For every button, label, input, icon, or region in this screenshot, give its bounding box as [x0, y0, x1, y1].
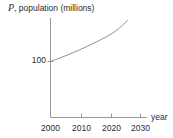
population-curve	[51, 21, 128, 62]
x-axis-tick-label-2010: 2010	[65, 123, 99, 133]
x-axis-tick-label-2000: 2000	[34, 123, 68, 133]
population-growth-figure: P, population (millions) 100 2000 2010 2…	[0, 0, 173, 138]
chart-plot-area	[0, 0, 173, 138]
x-axis-tick-label-2030: 2030	[124, 123, 158, 133]
y-axis-tick-label-100: 100	[26, 55, 46, 65]
x-axis-name: year	[151, 112, 168, 122]
